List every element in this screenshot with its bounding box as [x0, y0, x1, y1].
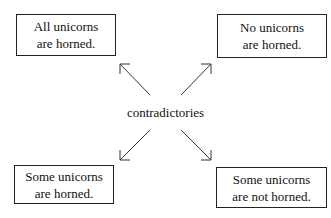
box-bottom-left-line2: are horned. [35, 185, 93, 202]
arrow-to-top-left [120, 64, 150, 95]
arrow-to-bottom-left [120, 130, 150, 160]
center-label: contradictories [115, 105, 216, 121]
box-bottom-left-line1: Some unicorns [25, 168, 103, 185]
box-top-left-line1: All unicorns [34, 18, 99, 35]
box-top-left: All unicorns are horned. [16, 14, 116, 56]
box-top-right: No unicorns are horned. [217, 14, 327, 58]
arrow-to-top-right [181, 64, 211, 95]
box-top-right-line2: are horned. [243, 36, 301, 53]
box-bottom-right-line2: are not horned. [232, 188, 310, 205]
box-bottom-right: Some unicorns are not horned. [216, 167, 327, 208]
box-top-right-line1: No unicorns [240, 19, 304, 36]
box-bottom-right-line1: Some unicorns [233, 171, 311, 188]
arrow-to-bottom-right [181, 130, 211, 160]
box-bottom-left: Some unicorns are horned. [14, 165, 114, 204]
box-top-left-line2: are horned. [37, 35, 95, 52]
